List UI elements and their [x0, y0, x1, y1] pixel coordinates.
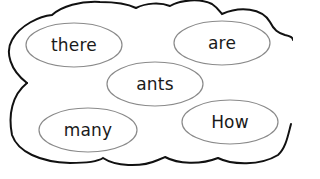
word-bubble-how[interactable]: How	[182, 100, 278, 144]
word-label: ants	[136, 74, 174, 94]
word-bubble-there[interactable]: there	[26, 23, 122, 67]
word-label: are	[208, 33, 236, 53]
word-bubble-are[interactable]: are	[174, 21, 270, 65]
word-label: How	[211, 112, 249, 132]
word-label: there	[51, 35, 97, 55]
word-label: many	[64, 120, 113, 140]
word-bubble-many[interactable]: many	[39, 108, 137, 152]
